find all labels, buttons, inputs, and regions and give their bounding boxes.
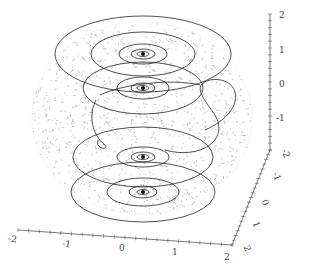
x-tick-neg1: -1 xyxy=(61,239,71,249)
sphere-vector-field-plot xyxy=(0,0,311,274)
x-tick-2: 2 xyxy=(224,253,230,262)
trajectory-curves xyxy=(55,16,236,222)
x-tick-neg2: -2 xyxy=(7,234,17,244)
z-tick-2: 2 xyxy=(279,11,285,20)
x-tick-0: 0 xyxy=(119,244,125,253)
z-tick-neg1: -1 xyxy=(276,114,285,123)
x-tick-1: 1 xyxy=(172,248,178,257)
z-tick-0: 0 xyxy=(279,80,285,89)
z-tick-1: 1 xyxy=(279,46,285,55)
sphere-outline xyxy=(32,22,252,214)
